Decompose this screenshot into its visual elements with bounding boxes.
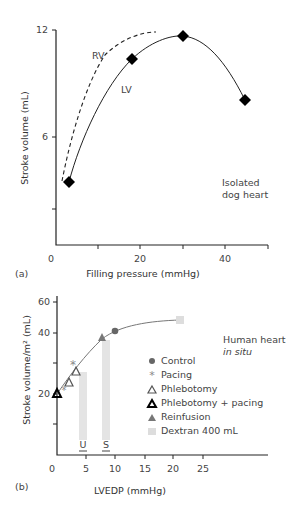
bar-s bbox=[102, 340, 110, 440]
open-triangle-icon bbox=[148, 386, 156, 393]
bar-u bbox=[79, 372, 87, 440]
figure: 12 6 0 20 40 Filling pressure (mmHg) (a)… bbox=[0, 0, 291, 512]
asterisk-icon: * bbox=[149, 369, 155, 382]
x-axis-label-b: LVEDP (mmHg) bbox=[94, 485, 166, 496]
panel-a: 12 6 0 20 40 Filling pressure (mmHg) (a)… bbox=[15, 24, 268, 279]
x-axis-label-a: Filling pressure (mmHg) bbox=[86, 268, 200, 279]
panel-b: U S 60 40 20 0 5 10 15 20 25 (b) LVEDP (… bbox=[15, 296, 286, 496]
x-tick: 20 bbox=[167, 463, 179, 474]
pacing-marker: * bbox=[62, 385, 67, 396]
diamond-marker bbox=[63, 176, 75, 188]
panel-label-a: (a) bbox=[15, 268, 28, 279]
diamond-marker bbox=[239, 94, 251, 106]
note-a-line1: Isolated bbox=[222, 177, 260, 188]
y-tick-40: 40 bbox=[38, 327, 50, 338]
rv-label: RV bbox=[92, 50, 105, 61]
y-tick-60: 60 bbox=[38, 296, 50, 307]
square-icon bbox=[148, 428, 156, 435]
y-tick-6: 6 bbox=[42, 131, 48, 142]
x-tick-0: 0 bbox=[48, 253, 54, 264]
x-tick: 5 bbox=[83, 463, 89, 474]
bold-triangle-icon bbox=[148, 400, 156, 407]
lv-label: LV bbox=[121, 84, 132, 95]
panel-label-b: (b) bbox=[15, 481, 28, 492]
y-tick-12: 12 bbox=[36, 24, 48, 35]
phlebotomy-marker bbox=[65, 378, 73, 386]
y-tick-20: 20 bbox=[38, 388, 50, 399]
axes-a bbox=[56, 30, 268, 245]
note-b-line1: Human heart bbox=[223, 334, 286, 345]
x-tick: 25 bbox=[197, 463, 209, 474]
legend: Control * Pacing Phlebotomy Phlebotomy +… bbox=[148, 355, 263, 436]
bar-u-label: U bbox=[80, 439, 87, 450]
legend-dextran: Dextran 400 mL bbox=[161, 425, 239, 436]
filled-triangle-icon bbox=[148, 414, 156, 421]
x-tick-40: 40 bbox=[219, 253, 231, 264]
bar-s-label: S bbox=[103, 439, 109, 450]
legend-phlebotomy: Phlebotomy bbox=[161, 383, 218, 394]
legend-pacing: Pacing bbox=[161, 369, 192, 380]
dextran-marker bbox=[176, 316, 184, 324]
control-marker bbox=[112, 328, 119, 335]
note-a-line2: dog heart bbox=[222, 189, 268, 200]
x-tick: 0 bbox=[49, 463, 55, 474]
diamond-marker bbox=[177, 30, 189, 42]
y-axis-label-a: Stroke volume (mL) bbox=[19, 91, 30, 184]
x-tick-20: 20 bbox=[134, 253, 146, 264]
y-axis-label-b: Stroke volume/m² (mL) bbox=[21, 315, 32, 425]
legend-reinfusion: Reinfusion bbox=[161, 411, 210, 422]
legend-phlebotomy-pacing: Phlebotomy + pacing bbox=[161, 397, 263, 408]
control-icon bbox=[149, 358, 155, 364]
note-b-line2: in situ bbox=[223, 346, 252, 357]
legend-control: Control bbox=[161, 355, 195, 366]
x-tick: 10 bbox=[109, 463, 121, 474]
x-tick: 15 bbox=[139, 463, 151, 474]
